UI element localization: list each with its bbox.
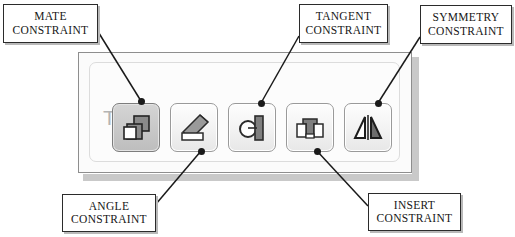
anchor-dot-tangent — [258, 100, 265, 107]
panel-shadow-right — [412, 57, 419, 179]
callout-symmetry-constraint: SYMMETRY CONSTRAINT — [420, 5, 512, 44]
anchor-dot-mate — [138, 98, 145, 105]
callout-symmetry-line2: CONSTRAINT — [428, 25, 504, 39]
mate-constraint-icon — [120, 112, 152, 144]
callout-angle-line1: ANGLE — [89, 200, 129, 214]
constraint-type-button-row — [112, 103, 392, 152]
callout-tangent-line2: CONSTRAINT — [306, 24, 382, 38]
callout-mate-line1: MATE — [34, 10, 67, 24]
symmetry-constraint-icon — [352, 112, 384, 144]
callout-mate-line2: CONSTRAINT — [13, 24, 89, 38]
anchor-dot-symmetry — [375, 100, 382, 107]
angle-constraint-button[interactable] — [170, 103, 218, 152]
anchor-dot-insert — [314, 148, 321, 155]
insert-constraint-button[interactable] — [286, 103, 334, 152]
callout-insert-constraint: INSERT CONSTRAINT — [368, 193, 461, 231]
callout-insert-line1: INSERT — [394, 199, 435, 213]
callout-tangent-line1: TANGENT — [316, 10, 371, 24]
tangent-constraint-button[interactable] — [228, 103, 276, 152]
figure-canvas: Type — [0, 0, 515, 237]
callout-angle-line2: CONSTRAINT — [71, 213, 147, 227]
symmetry-constraint-button[interactable] — [344, 103, 392, 152]
callout-insert-line2: CONSTRAINT — [377, 212, 453, 226]
angle-constraint-icon — [178, 112, 210, 144]
mate-constraint-button[interactable] — [112, 103, 160, 152]
panel-shadow-bottom — [83, 174, 419, 181]
tangent-constraint-icon — [236, 112, 268, 144]
callout-tangent-constraint: TANGENT CONSTRAINT — [299, 4, 388, 43]
insert-constraint-icon — [294, 112, 326, 144]
callout-symmetry-line1: SYMMETRY — [433, 11, 500, 25]
callout-angle-constraint: ANGLE CONSTRAINT — [62, 194, 156, 232]
anchor-dot-angle — [198, 148, 205, 155]
callout-mate-constraint: MATE CONSTRAINT — [3, 4, 98, 43]
